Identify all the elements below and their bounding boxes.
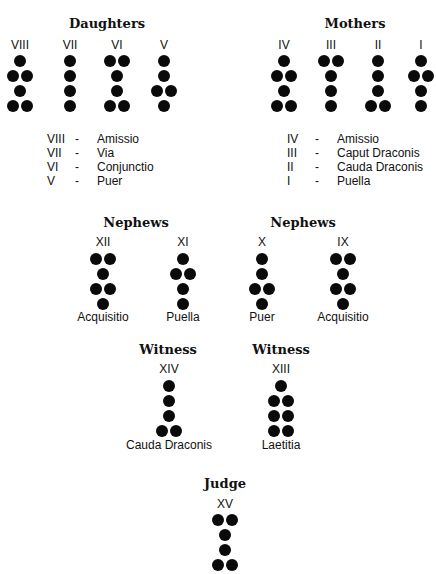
figure-row: [363, 70, 393, 85]
dot-icon: [104, 253, 116, 265]
legend-figure-name: Conjunctio: [97, 160, 154, 174]
figure-name: Puer: [249, 310, 274, 324]
figure-row: [55, 70, 85, 85]
judge-heading: Judge: [204, 476, 246, 491]
dot-icon: [256, 298, 268, 310]
figure-row: [269, 70, 299, 85]
figure-row: [328, 253, 358, 268]
dot-icon: [268, 395, 280, 407]
figure-row: [363, 100, 393, 115]
figure-row: [102, 70, 132, 85]
dot-icon: [151, 85, 163, 97]
dot-icon: [158, 55, 170, 67]
dot-icon: [158, 70, 170, 82]
dot-icon: [177, 253, 189, 265]
dot-icon: [415, 85, 427, 97]
geomantic-figure: [316, 55, 346, 115]
geomantic-figure: [154, 380, 184, 440]
dot-icon: [330, 283, 342, 295]
geomantic-figure: [149, 55, 179, 115]
dot-icon: [21, 70, 33, 82]
figure-numeral: V: [160, 38, 168, 52]
dot-icon: [104, 283, 116, 295]
figure-row: [406, 100, 436, 115]
dot-icon: [226, 514, 238, 526]
dot-icon: [156, 425, 168, 437]
dot-icon: [275, 380, 287, 392]
legend-dash: -: [315, 132, 337, 146]
figure-row: [316, 70, 346, 85]
dot-icon: [330, 253, 342, 265]
dot-icon: [415, 100, 427, 112]
legend-dash: -: [315, 174, 337, 188]
dot-icon: [212, 514, 224, 526]
dot-icon: [337, 298, 349, 310]
dot-icon: [64, 85, 76, 97]
legend-figure-name: Amissio: [97, 132, 139, 146]
figure-name: Acquisitio: [317, 310, 368, 324]
figure-row: [316, 85, 346, 100]
dot-icon: [268, 425, 280, 437]
dot-icon: [318, 55, 330, 67]
dot-icon: [21, 100, 33, 112]
dot-icon: [372, 55, 384, 67]
dot-icon: [7, 70, 19, 82]
geomantic-figure: [266, 380, 296, 440]
figure-row: [149, 85, 179, 100]
dot-icon: [282, 425, 294, 437]
dot-icon: [285, 70, 297, 82]
geomantic-figure: [102, 55, 132, 115]
dot-icon: [163, 410, 175, 422]
dot-icon: [365, 100, 377, 112]
figure-numeral: X: [258, 235, 266, 249]
figure-row: [328, 268, 358, 283]
figure-row: [363, 85, 393, 100]
figure-row: [168, 253, 198, 268]
dot-icon: [325, 85, 337, 97]
dot-icon: [282, 410, 294, 422]
dot-icon: [90, 283, 102, 295]
figure-numeral: XV: [217, 497, 233, 511]
figure-row: [247, 283, 277, 298]
legend-dash: -: [315, 146, 337, 160]
mothers-legend: IV-AmissioIII-Caput DraconisII-Cauda Dra…: [287, 132, 423, 188]
legend-row: IV-Amissio: [287, 132, 423, 146]
legend-row: VI-Conjunctio: [47, 160, 154, 174]
figure-row: [102, 55, 132, 70]
figure-row: [266, 380, 296, 395]
figure-row: [5, 85, 35, 100]
figure-numeral: XII: [96, 235, 111, 249]
figure-numeral: IX: [337, 235, 348, 249]
dot-icon: [278, 85, 290, 97]
dot-icon: [170, 425, 182, 437]
figure-row: [154, 395, 184, 410]
figure-row: [247, 268, 277, 283]
dot-icon: [163, 380, 175, 392]
dot-icon: [337, 268, 349, 280]
figure-row: [269, 85, 299, 100]
geomantic-figure: [363, 55, 393, 115]
dot-icon: [177, 298, 189, 310]
figure-numeral: VII: [63, 38, 78, 52]
figure-row: [316, 100, 346, 115]
legend-numeral: II: [287, 160, 315, 174]
dot-icon: [226, 559, 238, 571]
figure-row: [88, 268, 118, 283]
dot-icon: [111, 70, 123, 82]
legend-numeral: VIII: [47, 132, 75, 146]
figure-row: [266, 395, 296, 410]
figure-numeral: III: [326, 38, 336, 52]
figure-row: [363, 55, 393, 70]
figure-row: [5, 100, 35, 115]
dot-icon: [372, 85, 384, 97]
legend-numeral: I: [287, 174, 315, 188]
geomantic-figure: [328, 253, 358, 313]
dot-icon: [177, 283, 189, 295]
geomantic-figure: [55, 55, 85, 115]
legend-dash: -: [315, 160, 337, 174]
dot-icon: [263, 283, 275, 295]
dot-icon: [118, 55, 130, 67]
dot-icon: [14, 85, 26, 97]
figure-row: [55, 55, 85, 70]
legend-numeral: III: [287, 146, 315, 160]
